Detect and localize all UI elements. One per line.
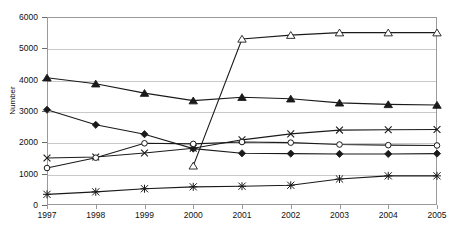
asterisk-marker — [43, 190, 51, 198]
filled-diamond-marker — [43, 106, 50, 113]
open-circle-marker — [93, 155, 99, 161]
series-filled-triangle — [43, 74, 441, 108]
series-asterisk — [43, 172, 441, 198]
asterisk-marker — [189, 183, 197, 191]
asterisk-marker — [336, 175, 344, 183]
filled-diamond-marker — [141, 131, 148, 138]
open-circle-marker — [190, 141, 196, 147]
filled-diamond-marker — [385, 150, 392, 157]
series-open-triangle-line — [193, 33, 437, 166]
open-circle-marker — [434, 143, 440, 149]
series-filled-triangle-line — [47, 78, 437, 105]
filled-diamond-marker — [238, 150, 245, 157]
series-filled-diamond-line — [47, 110, 437, 154]
asterisk-marker — [141, 185, 149, 193]
filled-diamond-marker — [92, 121, 99, 128]
series-open-triangle — [189, 29, 441, 169]
asterisk-marker — [384, 172, 392, 180]
open-circle-marker — [239, 139, 245, 145]
filled-diamond-marker — [433, 150, 440, 157]
asterisk-marker — [433, 172, 441, 180]
filled-diamond-marker — [336, 150, 343, 157]
asterisk-marker — [287, 181, 295, 189]
asterisk-marker — [238, 182, 246, 190]
open-circle-marker — [142, 140, 148, 146]
line-chart: Number 0100020003000400050006000 1997199… — [0, 0, 450, 241]
filled-triangle-marker — [43, 74, 51, 81]
open-circle-marker — [385, 142, 391, 148]
open-circle-marker — [288, 140, 294, 146]
series-layer — [0, 0, 450, 241]
asterisk-marker — [92, 188, 100, 196]
series-filled-diamond — [43, 106, 440, 157]
filled-diamond-marker — [287, 150, 294, 157]
open-triangle-marker — [189, 162, 197, 169]
open-circle-marker — [44, 165, 50, 171]
open-circle-marker — [337, 142, 343, 148]
